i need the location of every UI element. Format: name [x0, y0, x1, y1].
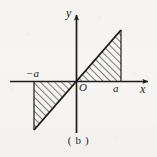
origin-label: O	[79, 82, 87, 93]
figure-container: y x O −a a ( b )	[0, 0, 157, 157]
x-axis-label: x	[140, 83, 145, 95]
x-tick-label-a: a	[113, 83, 119, 94]
figure-caption: ( b )	[0, 134, 157, 146]
y-axis-label: y	[66, 7, 71, 19]
x-tick-label-negative-a: −a	[26, 68, 39, 79]
